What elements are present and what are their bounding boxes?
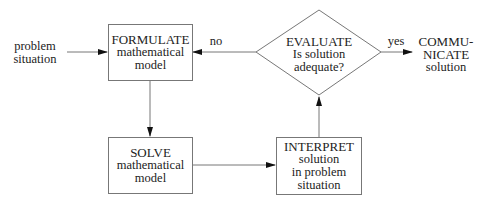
diagram-connectors	[0, 0, 488, 209]
evaluate-label: EVALUATE Is solution adequate?	[279, 35, 359, 74]
formulate-label: FORMULATE mathematical model	[111, 33, 189, 72]
interpret-box: INTERPRET solution in problem situation	[276, 137, 362, 195]
formulate-line3: model	[111, 59, 189, 72]
solve-line3: model	[117, 172, 184, 185]
interpret-line4: situation	[284, 179, 354, 192]
input-label: problem situation	[6, 40, 64, 66]
evaluate-line3: adequate?	[279, 61, 359, 74]
communicate-line3: solution	[413, 61, 479, 74]
formulate-box: FORMULATE mathematical model	[108, 24, 193, 81]
input-label-line2: situation	[6, 53, 64, 66]
interpret-label: INTERPRET solution in problem situation	[284, 140, 354, 192]
edge-label-yes: yes	[383, 35, 409, 48]
solve-label: SOLVE mathematical model	[117, 146, 184, 185]
solve-box: SOLVE mathematical model	[108, 137, 193, 194]
edge-label-no: no	[204, 35, 228, 48]
communicate-label: COMMU- NICATE solution	[413, 35, 479, 74]
modeling-cycle-diagram: problem situation FORMULATE mathematical…	[0, 0, 488, 209]
